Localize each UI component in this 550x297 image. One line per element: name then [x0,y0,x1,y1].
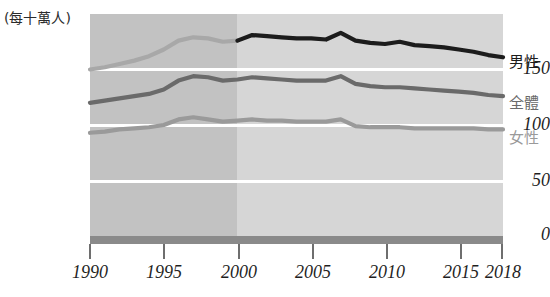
x-tick-1990 [89,244,91,259]
y-tick-label-0: 0 [466,224,550,245]
x-tick-2005 [312,244,314,259]
x-tick-label-1995: 1995 [146,262,182,283]
legend-label-male: 男性 [509,50,539,71]
x-tick-2015 [460,244,462,259]
gridline-150 [90,68,503,71]
x-tick-label-2005: 2005 [295,262,331,283]
legend-label-female: 女性 [509,126,539,147]
y-tick-label-50: 50 [466,170,550,191]
plot-area [90,14,503,236]
baseline-bar [90,236,503,244]
x-tick-2000 [238,244,240,259]
x-tick-label-2018: 2018 [485,262,521,283]
x-tick-1995 [163,244,165,259]
x-tick-label-2015: 2015 [443,262,479,283]
x-tick-label-2000: 2000 [221,262,257,283]
gridline-100 [90,124,503,127]
line-chart: (每十萬人) 150 100 50 0 1990 1995 2000 2005 … [0,0,550,297]
gridline-50 [90,180,503,183]
y-axis-unit-title: (每十萬人) [4,7,71,27]
legend-label-total: 全體 [509,91,539,112]
x-tick-2018 [501,244,503,259]
x-tick-label-2010: 2010 [369,262,405,283]
x-tick-2010 [386,244,388,259]
x-tick-label-1990: 1990 [72,262,108,283]
